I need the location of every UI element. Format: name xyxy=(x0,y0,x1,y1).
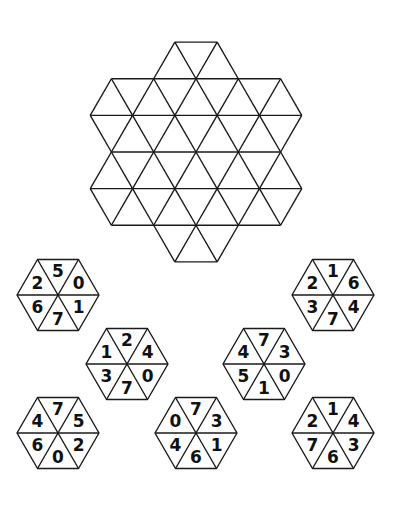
triangle-number: 2 xyxy=(306,411,318,431)
triangle-number: 2 xyxy=(121,330,133,350)
grid-edge xyxy=(154,115,175,152)
triangle-number: 7 xyxy=(306,435,318,455)
grid-edge xyxy=(154,79,175,116)
triangle-number: 1 xyxy=(327,261,339,281)
piece-7[interactable]: 143672 xyxy=(292,397,374,468)
grid-edge xyxy=(133,79,154,116)
grid-edge xyxy=(90,152,111,189)
triangle-number: 7 xyxy=(327,309,339,329)
triangle-number: 3 xyxy=(100,366,112,386)
grid-edge xyxy=(196,152,217,189)
triangle-number: 0 xyxy=(52,447,64,467)
grid-edge xyxy=(238,152,259,189)
grid-edge xyxy=(175,225,196,262)
grid-edge xyxy=(281,152,302,189)
grid-edge xyxy=(111,152,132,189)
grid-edge xyxy=(281,79,302,116)
triangle-number: 2 xyxy=(73,435,85,455)
grid-edge xyxy=(238,79,259,116)
triangle-number: 4 xyxy=(142,342,154,362)
triangle-number: 6 xyxy=(31,435,43,455)
triangle-number: 5 xyxy=(73,411,85,431)
triangle-number: 6 xyxy=(31,297,43,317)
grid-edge xyxy=(217,152,238,189)
grid-edge xyxy=(133,152,154,189)
triangle-number: 0 xyxy=(169,411,181,431)
grid-edge xyxy=(90,79,111,116)
triangle-number: 1 xyxy=(258,378,270,398)
triangle-number: 5 xyxy=(52,261,64,281)
grid-edge xyxy=(175,152,196,189)
grid-edge xyxy=(111,79,132,116)
triangle-number: 4 xyxy=(348,411,360,431)
grid-edge xyxy=(175,79,196,116)
grid-edge xyxy=(154,152,175,189)
grid-edge xyxy=(217,79,238,116)
triangle-number: 4 xyxy=(348,297,360,317)
empty-triangle-grid xyxy=(90,42,302,262)
grid-edge xyxy=(217,189,238,226)
piece-6[interactable]: 731640 xyxy=(155,397,237,468)
piece-5[interactable]: 752064 xyxy=(17,397,99,468)
grid-edge xyxy=(196,79,217,116)
grid-edge xyxy=(90,189,111,226)
grid-edge xyxy=(259,115,280,152)
triangle-number: 5 xyxy=(237,366,249,386)
grid-edge xyxy=(238,115,259,152)
triangle-number: 7 xyxy=(52,399,64,419)
grid-edge xyxy=(217,42,238,79)
piece-2[interactable]: 164732 xyxy=(292,259,374,330)
triangle-number: 2 xyxy=(306,273,318,293)
grid-edge xyxy=(154,225,175,262)
triangle-number: 7 xyxy=(190,399,202,419)
triangle-number: 1 xyxy=(100,342,112,362)
grid-edge xyxy=(196,225,217,262)
triangle-number: 1 xyxy=(327,399,339,419)
piece-1[interactable]: 501762 xyxy=(17,259,99,330)
grid-edge xyxy=(154,42,175,79)
triangle-number: 6 xyxy=(190,447,202,467)
grid-edge xyxy=(133,115,154,152)
triangle-number: 7 xyxy=(52,309,64,329)
grid-edge xyxy=(259,79,280,116)
grid-edge xyxy=(175,115,196,152)
grid-edge xyxy=(175,189,196,226)
grid-edge xyxy=(238,189,259,226)
piece-3[interactable]: 240731 xyxy=(86,328,168,399)
grid-edge xyxy=(259,189,280,226)
triangle-number: 3 xyxy=(348,435,360,455)
grid-edge xyxy=(154,189,175,226)
puzzle-canvas: 5017621647322407317301547520647316401436… xyxy=(0,0,394,508)
triangle-number: 6 xyxy=(327,447,339,467)
grid-edge xyxy=(133,189,154,226)
grid-edge xyxy=(175,42,196,79)
triangle-number: 3 xyxy=(279,342,291,362)
triangle-number: 2 xyxy=(31,273,43,293)
triangle-number: 4 xyxy=(31,411,43,431)
triangle-number: 0 xyxy=(279,366,291,386)
grid-edge xyxy=(217,225,238,262)
triangle-number: 1 xyxy=(73,297,85,317)
triangle-number: 0 xyxy=(73,273,85,293)
grid-edge xyxy=(281,115,302,152)
grid-edge xyxy=(111,115,132,152)
triangle-number: 1 xyxy=(211,435,223,455)
grid-edge xyxy=(111,189,132,226)
triangle-number: 6 xyxy=(348,273,360,293)
grid-edge xyxy=(90,115,111,152)
triangle-number: 0 xyxy=(142,366,154,386)
hexagon-pieces: 5017621647322407317301547520647316401436… xyxy=(17,259,374,468)
triangle-number: 4 xyxy=(169,435,181,455)
grid-edge xyxy=(196,189,217,226)
grid-edge xyxy=(259,152,280,189)
triangle-number: 3 xyxy=(306,297,318,317)
triangle-number: 4 xyxy=(237,342,249,362)
grid-edge xyxy=(196,42,217,79)
grid-edge xyxy=(217,115,238,152)
triangle-number: 7 xyxy=(121,378,133,398)
piece-4[interactable]: 730154 xyxy=(223,328,305,399)
grid-edge xyxy=(281,189,302,226)
triangle-number: 3 xyxy=(211,411,223,431)
grid-edge xyxy=(196,115,217,152)
triangle-number: 7 xyxy=(258,330,270,350)
